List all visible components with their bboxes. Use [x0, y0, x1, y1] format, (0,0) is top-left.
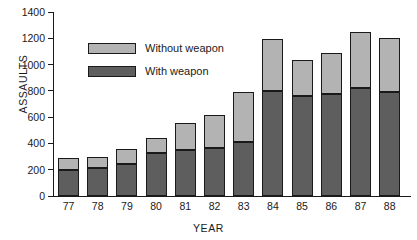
bar-segment-without-weapon [204, 115, 225, 149]
y-axis-tick-label: 1000 [22, 59, 45, 71]
bar-80 [146, 138, 167, 196]
bar-segment-with-weapon [321, 94, 342, 196]
x-axis-tick-label: 88 [373, 200, 407, 212]
bar-segment-without-weapon [321, 53, 342, 94]
y-axis-ticks: 1400120010008006004002000 [0, 0, 53, 240]
legend-swatch-without-weapon [88, 43, 136, 54]
bar-segment-without-weapon [379, 38, 400, 93]
bar-segment-with-weapon [87, 168, 108, 196]
legend-item: With weapon [88, 63, 224, 79]
y-axis-tick-label: 1200 [22, 32, 45, 44]
bar-86 [321, 53, 342, 196]
bar-segment-with-weapon [262, 91, 283, 196]
bar-segment-without-weapon [292, 60, 313, 96]
plot-area [54, 0, 411, 196]
bar-segment-with-weapon [292, 96, 313, 196]
bar-segment-with-weapon [58, 170, 79, 196]
legend-label: With weapon [145, 65, 209, 77]
bar-87 [350, 32, 371, 196]
bar-81 [175, 123, 196, 196]
x-axis-label: YEAR [0, 222, 417, 234]
bar-segment-with-weapon [204, 148, 225, 196]
bar-segment-without-weapon [175, 123, 196, 150]
bar-segment-with-weapon [233, 142, 254, 196]
bar-segment-without-weapon [233, 92, 254, 142]
bar-78 [87, 157, 108, 196]
bar-segment-without-weapon [58, 158, 79, 170]
assaults-by-year-bar-chart: ASSAULTS YEAR 1400120010008006004002000 … [0, 0, 417, 240]
bar-segment-without-weapon [87, 157, 108, 168]
bar-83 [233, 92, 254, 196]
bar-segment-with-weapon [379, 92, 400, 196]
x-axis-line [53, 196, 411, 197]
bar-segment-without-weapon [116, 149, 137, 165]
bar-segment-with-weapon [175, 150, 196, 196]
bar-segment-without-weapon [350, 32, 371, 89]
bar-77 [58, 158, 79, 196]
y-axis-tick-label: 0 [39, 190, 45, 202]
legend-swatch-with-weapon [88, 66, 136, 77]
bar-79 [116, 149, 137, 196]
bar-84 [262, 39, 283, 196]
y-axis-tick-label: 400 [27, 137, 45, 149]
bar-85 [292, 60, 313, 196]
y-axis-tick-label: 200 [27, 164, 45, 176]
y-axis-tick-label: 800 [27, 85, 45, 97]
chart-legend: Without weapon With weapon [88, 40, 224, 86]
bar-segment-without-weapon [146, 138, 167, 152]
legend-item: Without weapon [88, 40, 224, 56]
legend-label: Without weapon [145, 42, 224, 54]
bar-segment-with-weapon [116, 164, 137, 196]
y-axis-tick-label: 600 [27, 111, 45, 123]
bar-82 [204, 115, 225, 196]
bar-segment-with-weapon [350, 88, 371, 196]
y-axis-tick-label: 1400 [22, 6, 45, 18]
bar-segment-with-weapon [146, 153, 167, 196]
bar-segment-without-weapon [262, 39, 283, 91]
bar-88 [379, 38, 400, 196]
